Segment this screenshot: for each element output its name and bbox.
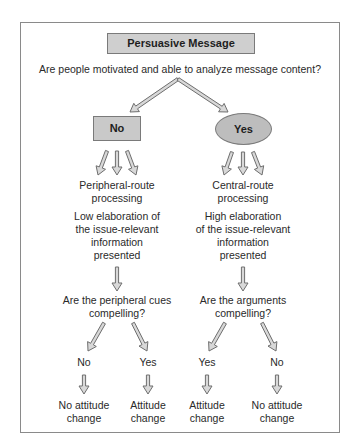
arrow-right-no-result (272, 375, 282, 394)
high-elaboration-label: High elaboration of the issue-relevant i… (196, 210, 291, 262)
text-line: the issue-relevant (74, 223, 160, 236)
text-line: Are the arguments (200, 294, 286, 307)
arrow-yes-fan-right (252, 151, 264, 175)
answer-left-no: No (77, 356, 90, 369)
text-line: No attitude (252, 399, 303, 412)
text-line: Attitude (189, 399, 225, 412)
peripheral-cues-question: Are the peripheral cues compelling? (63, 294, 172, 320)
result-left-no: No attitude change (59, 399, 110, 425)
title-box: Persuasive Message (107, 33, 255, 54)
arrow-arguments-yes (209, 322, 227, 351)
arrow-no-fan-right (126, 150, 138, 175)
text-line: presented (74, 249, 160, 262)
low-elaboration-label: Low elaboration of the issue-relevant in… (74, 210, 160, 262)
arrow-yes-fan-center (238, 152, 248, 175)
text-line: compelling? (63, 307, 172, 320)
arrow-peripheral-no (88, 322, 106, 351)
text-line: change (252, 412, 303, 425)
text-line: Central-route (212, 179, 273, 192)
arrow-low-elaboration-down (112, 267, 122, 291)
central-route-label: Central-route processing (212, 179, 273, 205)
arrow-peripheral-yes (132, 322, 148, 351)
arrow-right-yes-result (202, 375, 212, 394)
text-line: Are the peripheral cues (63, 294, 172, 307)
answer-right-yes: Yes (198, 356, 215, 369)
text-line: Low elaboration of (74, 210, 160, 223)
text-line: Peripheral-route (79, 179, 154, 192)
arguments-question: Are the arguments compelling? (200, 294, 286, 320)
text-line: processing (212, 192, 273, 205)
text-line: change (59, 412, 110, 425)
result-right-no: No attitude change (252, 399, 303, 425)
result-right-yes: Attitude change (189, 399, 225, 425)
main-question: Are people motivated and able to analyze… (39, 63, 321, 76)
text-line: information (196, 236, 291, 249)
arrow-no-fan-left (96, 150, 108, 175)
text-line: compelling? (200, 307, 286, 320)
text-line: change (130, 412, 166, 425)
arrow-left-no-result (79, 375, 89, 394)
arrow-left-yes-result (143, 375, 153, 394)
text-line: presented (196, 249, 291, 262)
text-line: High elaboration (196, 210, 291, 223)
no-node: No (93, 116, 141, 141)
arrow-yes-fan-left (222, 152, 234, 176)
text-line: of the issue-relevant (196, 223, 291, 236)
answer-left-yes: Yes (139, 356, 156, 369)
peripheral-route-label: Peripheral-route processing (79, 179, 154, 205)
arrow-to-no (130, 78, 179, 112)
yes-node: Yes (215, 113, 272, 145)
result-left-yes: Attitude change (130, 399, 166, 425)
text-line: No attitude (59, 399, 110, 412)
text-line: processing (79, 192, 154, 205)
text-line: information (74, 236, 160, 249)
answer-right-no: No (270, 356, 283, 369)
text-line: Attitude (130, 399, 166, 412)
text-line: change (189, 412, 225, 425)
arrow-to-yes (177, 78, 228, 112)
arrow-no-fan-center (112, 151, 122, 175)
arrow-high-elaboration-down (238, 267, 248, 291)
arrow-arguments-no (261, 322, 277, 351)
